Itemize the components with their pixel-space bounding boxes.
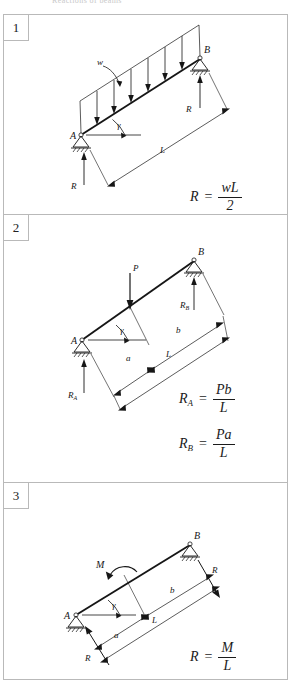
panel-2-angle-label: γ — [120, 325, 124, 335]
panel-1-formula-1: R = wL 2 — [190, 181, 242, 213]
equals-sign: = — [205, 189, 213, 205]
panel-3-load-label: M — [95, 559, 105, 570]
panel-2-support-b-label: B — [198, 246, 204, 257]
panel-2-reaction-a-label: RA — [67, 390, 78, 401]
panel-3-formula-1-lhs: R — [190, 649, 199, 665]
panel-3-dim-b-label: b — [170, 585, 175, 595]
panel-3-reaction-b-label: R — [211, 565, 218, 575]
panel-3-angle-label: γ — [112, 600, 116, 610]
panel-1-reaction-b-label: R — [185, 104, 192, 114]
page-root: Reactions of beams 1 — [0, 0, 293, 690]
panel-3-support-a-label: A — [63, 610, 71, 621]
panel-2-load-label: P — [132, 263, 139, 273]
equals-sign: = — [199, 436, 207, 452]
panel-2-formula-1-fraction: Pb L — [213, 383, 235, 415]
panel-3-span-label: L — [151, 615, 157, 625]
panel-1-load-label: w — [97, 57, 103, 67]
panel-2: 2 — [4, 215, 287, 455]
panel-1-formula-1-denominator: 2 — [218, 197, 241, 214]
header-caption: Reactions of beams — [52, 0, 122, 5]
panel-2-dim-b-label: b — [176, 325, 181, 335]
panel-2-support-a-label: A — [70, 335, 78, 346]
panel-1-support-b-label: B — [204, 44, 210, 55]
panel-2-formula-2: RB = Pa L — [179, 428, 235, 460]
panel-2-formula-2-fraction: Pa L — [213, 428, 235, 460]
panel-3-formula-1-fraction: M L — [218, 641, 236, 673]
panel-3-reaction-a-label: R — [84, 653, 91, 663]
panel-2-formula-2-lhs: R — [179, 436, 188, 452]
panel-3-figure: M A B γ a b L R R — [4, 483, 289, 680]
panel-2-formula-1-lhs: R — [179, 391, 188, 407]
panel-3-formula-1: R = M L — [190, 641, 236, 673]
panel-2-formula-1-numerator: Pb — [213, 383, 235, 399]
panel-1-reaction-a-label: R — [70, 181, 77, 191]
equals-sign: = — [205, 649, 213, 665]
panel-2-formula-1: RA = Pb L — [179, 383, 235, 415]
panel-3-dim-a-label: a — [114, 630, 119, 640]
panel-1-formula-1-lhs: R — [190, 189, 199, 205]
panel-2-span-label: L — [165, 349, 171, 359]
panel-3-support-b-label: B — [194, 530, 200, 541]
panel-2-dim-a-label: a — [126, 353, 131, 363]
equals-sign: = — [199, 391, 207, 407]
panel-2-formula-2-denominator: L — [213, 444, 235, 461]
panel-3-formula-1-denominator: L — [218, 657, 236, 674]
panel-1-span-label: L — [159, 145, 165, 155]
panel-3: 3 — [4, 483, 287, 680]
panel-1-angle-label: γ — [117, 120, 121, 130]
panel-3-formula-1-numerator: M — [218, 641, 236, 657]
panel-1: 1 — [4, 15, 287, 214]
panel-2-reaction-b-label: RB — [179, 300, 190, 311]
reactions-table: 1 — [3, 14, 288, 680]
panel-1-formula-1-numerator: wL — [218, 181, 241, 197]
panel-1-figure: w A B γ L R R — [4, 15, 289, 214]
panel-2-formula-2-numerator: Pa — [213, 428, 235, 444]
panel-2-figure: P A B γ a b L RA RB — [4, 215, 289, 455]
panel-2-formula-1-denominator: L — [213, 399, 235, 416]
panel-2-formula-2-sub: B — [188, 443, 194, 453]
panel-1-support-a-label: A — [69, 130, 77, 141]
header-strip: Reactions of beams — [0, 0, 293, 13]
panel-1-formula-1-fraction: wL 2 — [218, 181, 241, 213]
panel-2-formula-1-sub: A — [188, 398, 194, 408]
